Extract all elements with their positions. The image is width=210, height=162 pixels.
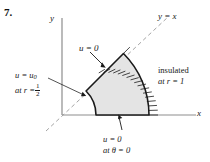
boundary-label-outer-radius: insulated at r = 1	[158, 65, 189, 86]
inner-label-subscript: 0	[34, 73, 37, 80]
inner-label-fraction: 12	[35, 83, 41, 98]
figure-canvas: 7.	[0, 0, 210, 162]
inner-label-line2-text: at r =	[15, 85, 35, 95]
bottom-label-line2-suffix: = 0	[116, 145, 130, 155]
inner-label-line1-text: u = u	[15, 70, 34, 80]
outer-label-line2: at r = 1	[158, 76, 189, 87]
diagonal-label-y-equals-x: y = x	[158, 11, 177, 21]
inner-label-line1: u = u0	[15, 70, 40, 83]
boundary-label-inner-radius: u = u0 at r =12	[15, 70, 40, 98]
y-axis-label: y	[50, 13, 54, 23]
outer-label-line1: insulated	[158, 65, 189, 76]
boundary-label-top-edge: u = 0	[79, 43, 99, 53]
bottom-label-line2: at θ = 0	[103, 145, 130, 156]
arrow-to-bottom-edge	[118, 115, 122, 130]
bottom-label-line2-prefix: at	[103, 145, 112, 155]
arrow-to-top-edge	[90, 52, 106, 68]
fraction-denominator: 2	[35, 91, 41, 98]
inner-label-line2: at r =12	[15, 83, 40, 98]
boundary-label-bottom-edge: u = 0 at θ = 0	[103, 134, 130, 155]
bottom-label-line1: u = 0	[103, 134, 130, 145]
x-axis-label: x	[197, 108, 201, 118]
annular-sector-region	[86, 53, 149, 115]
leader-to-inner-arc	[48, 78, 86, 96]
